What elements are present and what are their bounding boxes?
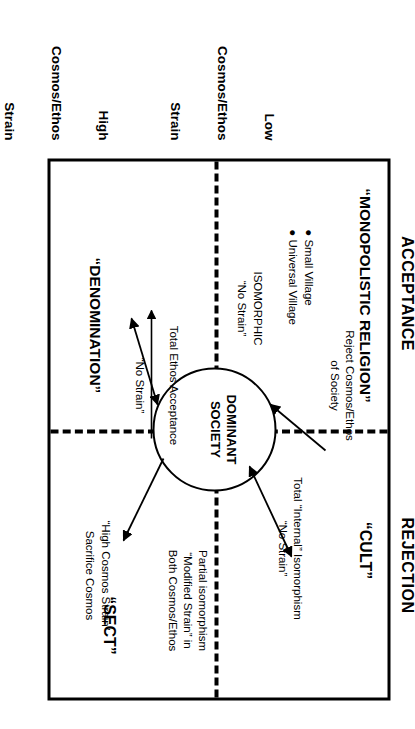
side-label-high-line2: Cosmos/Ethos [47,0,63,140]
denomination-annotation-right-line2: Sacrifice Cosmos [82,470,95,680]
cult-annotation-right-line2: “No Strain” [275,432,288,664]
side-label-low-strain: Low Cosmos/Ethos Strain [135,0,307,140]
sect-annotation-line2: “Modified Strain” in [180,500,193,700]
denomination-annotation-left-line1: Total Ethos Acceptance [166,300,179,470]
side-label-low-line2: Cosmos/Ethos [213,0,229,140]
side-label-low-line1: Low [260,0,276,140]
denomination-annotation-right-line1: “High Cosmos Strain” [98,470,111,680]
cult-annotation-left-line1: Reject Cosmos/Ethos [342,300,355,470]
sect-annotation-line3: Both Cosmos/Ethos [165,500,178,700]
bullet-dot-1: ● [286,229,298,239]
side-label-high-strain: High Cosmos/Ethos Strain [0,0,141,140]
side-label-high-line3: Strain [0,0,16,140]
quadrant-label-monopolistic-religion: “MONOPOLISTIC RELIGION” [355,170,373,420]
quadrant-label-denomination: “DENOMINATION” [85,210,103,440]
side-label-low-line3: Strain [166,0,182,140]
monopolistic-bullet-1-label: Universal Village [286,239,298,324]
side-label-high-line1: High [94,0,110,140]
cult-annotation-left-line2: of Society [327,300,340,470]
monopolistic-bullet-1: ● Universal Village [271,216,311,386]
monopolistic-annotation-line1: ISOMORPHIC [250,228,263,388]
denomination-annotation-left-line2: “No Strain” [132,300,145,470]
quadrant-label-cult: “CULT” [354,470,373,630]
monopolistic-annotation-line2: “No Strain” [234,228,247,388]
cult-annotation-right-line1: Total “Internal” Isomorphism [290,432,303,664]
sect-annotation-line1: Partial isomorphism [195,500,208,700]
